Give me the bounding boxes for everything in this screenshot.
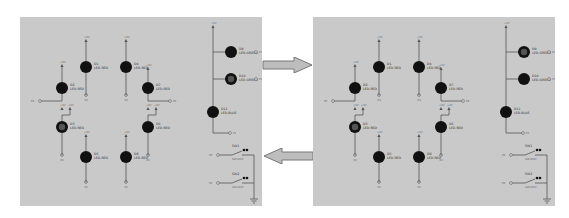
port-label: P3 xyxy=(552,78,555,81)
ground-label: 0V xyxy=(61,159,65,162)
power-arrow-icon xyxy=(154,107,157,110)
led-d9 xyxy=(225,46,237,58)
led-glow-icon xyxy=(228,76,234,82)
port-terminal-icon xyxy=(217,182,220,185)
power-arrow-icon xyxy=(84,39,87,42)
switch-type-label: SW-SPST xyxy=(525,158,537,161)
power-arrow-icon xyxy=(60,64,63,67)
power-arrow-icon xyxy=(417,134,420,137)
port-label: P2 xyxy=(552,51,555,54)
led-d11 xyxy=(500,106,512,118)
port-label: P1 xyxy=(233,132,237,135)
wire xyxy=(213,122,230,133)
led-d5 xyxy=(80,151,92,163)
power-arrow-icon xyxy=(211,25,214,28)
power-label: +5V xyxy=(60,104,66,107)
power-label: +5V xyxy=(124,131,130,134)
power-label: +5V xyxy=(361,104,367,107)
switch-contact-icon xyxy=(243,177,246,180)
power-label: +5V xyxy=(439,64,445,67)
led-d10 xyxy=(518,73,530,85)
power-arrow-icon xyxy=(124,39,127,42)
power-arrow-icon xyxy=(60,107,63,110)
switch-type-label: SW-SPST xyxy=(232,186,244,189)
led-d8 xyxy=(413,151,425,163)
port-terminal-icon xyxy=(548,51,551,54)
port-terminal-icon xyxy=(522,132,525,135)
wire xyxy=(148,94,170,101)
led-type-label: LED-RED xyxy=(387,156,402,160)
schematic-panel-left: +5VD1LED-RED0V+5VD2LED-REDP0+5VD4LED-RED… xyxy=(20,17,262,206)
switch-lever-icon xyxy=(525,151,535,155)
power-label: +5V xyxy=(353,61,359,64)
port-label: P0 xyxy=(502,154,506,157)
port-label: P0 xyxy=(324,100,328,103)
ground-label: 0V xyxy=(85,99,89,102)
led-d4 xyxy=(413,61,425,73)
led-type-label: LED-RED xyxy=(387,66,402,70)
led-glow-icon xyxy=(59,124,65,130)
port-label: P1 xyxy=(526,132,530,135)
led-type-label: LED-RED xyxy=(427,156,442,160)
led-type-label: LED-RED xyxy=(94,156,109,160)
power-arrow-icon xyxy=(68,107,71,110)
power-label: +5V xyxy=(447,104,453,107)
led-d2 xyxy=(56,82,68,94)
power-arrow-icon xyxy=(84,134,87,137)
power-arrow-icon xyxy=(447,107,450,110)
led-type-label: LED-RED xyxy=(449,126,464,130)
led-type-label: LED-RED xyxy=(94,66,109,70)
power-arrow-icon xyxy=(353,64,356,67)
led-type-label: LED-BLUE xyxy=(514,111,529,115)
led-type-label: LED-RED xyxy=(70,87,85,91)
power-arrow-icon xyxy=(417,39,420,42)
switch-type-label: SW-SPST xyxy=(525,186,537,189)
led-d2 xyxy=(349,82,361,94)
backward-arrow xyxy=(262,148,314,164)
power-label: +5V xyxy=(353,104,359,107)
power-label: +5V xyxy=(124,36,130,39)
switch-lever-icon xyxy=(232,179,242,183)
port-terminal-icon xyxy=(39,100,42,103)
led-type-label: LED-RED xyxy=(427,66,442,70)
port-label: P0 xyxy=(209,182,213,185)
power-label: +5V xyxy=(439,104,445,107)
wire xyxy=(333,94,355,101)
led-type-label: LED-RED xyxy=(156,87,171,91)
power-label: +5V xyxy=(154,104,160,107)
led-type-label: LED-BLUE xyxy=(221,111,236,115)
power-arrow-icon xyxy=(146,107,149,110)
led-type-label: LED-RED xyxy=(134,66,149,70)
ground-label: 0V xyxy=(85,186,89,189)
ground-label: 0V xyxy=(418,99,422,102)
ground-label: 0V xyxy=(418,186,422,189)
port-terminal-icon xyxy=(169,100,172,103)
led-glow-icon xyxy=(521,49,527,55)
switch-ref-label: SW2 xyxy=(232,172,239,176)
switch-contact-icon xyxy=(539,177,542,180)
power-arrow-icon xyxy=(377,134,380,137)
ground-label: 0V xyxy=(354,159,358,162)
schematic-panel-right: +5VD1LED-RED0V+5VD2LED-REDP0+5VD4LED-RED… xyxy=(313,17,555,206)
power-arrow-icon xyxy=(504,25,507,28)
switch-contact-icon xyxy=(246,149,249,152)
led-type-label: LED-RED xyxy=(363,87,378,91)
port-label: P0 xyxy=(209,154,213,157)
led-type-label: LED-RED xyxy=(134,156,149,160)
switch-lever-icon xyxy=(525,179,535,183)
port-terminal-icon xyxy=(510,182,513,185)
led-d11 xyxy=(207,106,219,118)
port-terminal-icon xyxy=(462,100,465,103)
led-d1 xyxy=(373,61,385,73)
schematic-left: +5VD1LED-RED0V+5VD2LED-REDP0+5VD4LED-RED… xyxy=(20,17,262,206)
led-type-label: LED-RED xyxy=(156,126,171,130)
port-terminal-icon xyxy=(255,78,258,81)
led-d5 xyxy=(373,151,385,163)
port-label: P2 xyxy=(259,51,262,54)
port-label: P0 xyxy=(31,100,35,103)
led-d7 xyxy=(435,82,447,94)
power-label: +5V xyxy=(146,64,152,67)
port-terminal-icon xyxy=(510,154,513,157)
ground-label: 0V xyxy=(125,186,129,189)
port-terminal-icon xyxy=(255,51,258,54)
